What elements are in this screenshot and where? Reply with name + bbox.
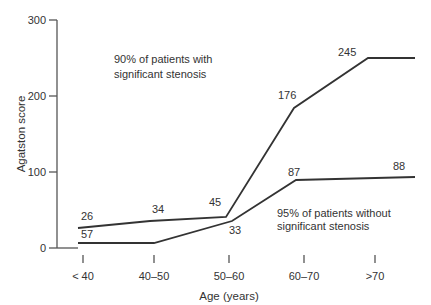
- data-label-57: 57: [81, 228, 93, 240]
- annotation-without-stenosis-line1: 95% of patients without: [277, 207, 391, 219]
- agatston-chart: 300 200 100 0 Agatston score < 40 40–50 …: [0, 0, 431, 305]
- y-tick-label-100: 100: [28, 166, 46, 178]
- data-label-33: 33: [229, 224, 241, 236]
- data-label-34: 34: [152, 203, 164, 215]
- x-axis-title: Age (years): [199, 290, 259, 302]
- x-tick-label-40-50: 40–50: [139, 270, 170, 282]
- y-tick-label-0: 0: [40, 242, 46, 254]
- y-tick-label-300: 300: [28, 14, 46, 26]
- data-label-245: 245: [338, 46, 356, 58]
- y-axis-title: Agatston score: [15, 96, 27, 173]
- annotation-with-stenosis-line2: significant stenosis: [114, 68, 207, 80]
- y-tick-label-200: 200: [28, 90, 46, 102]
- x-tick-label-lt40: < 40: [72, 270, 94, 282]
- data-label-45: 45: [209, 196, 221, 208]
- x-tick-label-50-60: 50–60: [214, 270, 245, 282]
- data-label-88: 88: [393, 160, 405, 172]
- series-with-stenosis-line: [78, 58, 415, 228]
- data-label-87: 87: [288, 166, 300, 178]
- data-label-176: 176: [278, 89, 296, 101]
- data-label-26: 26: [81, 210, 93, 222]
- annotation-with-stenosis-line1: 90% of patients with: [114, 53, 212, 65]
- annotation-without-stenosis-line2: significant stenosis: [277, 220, 370, 232]
- x-tick-label-gt70: >70: [366, 270, 385, 282]
- x-tick-label-60-70: 60–70: [289, 270, 320, 282]
